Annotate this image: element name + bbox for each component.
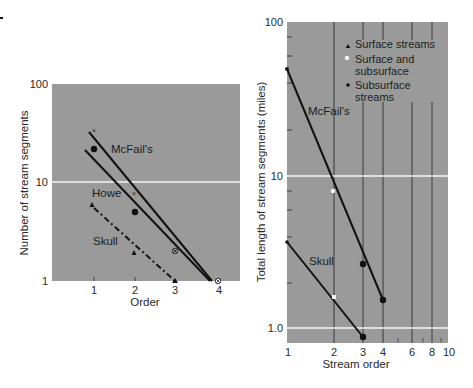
- left-label-mcfail: McFail's: [111, 143, 153, 155]
- legend-surface: Surface streams: [355, 38, 436, 50]
- left-ytick-1: 1: [42, 275, 48, 287]
- dot-marker-icon: [132, 209, 138, 215]
- dot-marker-icon: [360, 334, 366, 340]
- left-ylabel: Number of stream segments: [18, 110, 30, 255]
- right-xtick-6: 6: [409, 346, 415, 358]
- right-ytick-10: 10: [271, 170, 283, 182]
- right-xtick-8: 8: [429, 346, 435, 358]
- left-xtick-3: 3: [172, 284, 178, 296]
- right-xtick-10: 10: [443, 346, 455, 358]
- left-xtick-2: 2: [132, 284, 138, 296]
- dot-marker-icon: [285, 240, 289, 244]
- left-ytick-100: 100: [30, 78, 48, 90]
- circle-x-marker-icon: [215, 278, 221, 284]
- left-xlabel: Order: [130, 296, 160, 308]
- dot-marker-icon: [346, 83, 350, 87]
- right-xtick-3: 3: [360, 346, 366, 358]
- legend-mixed-line2: subsurface: [355, 65, 409, 77]
- right-xtick-1: 1: [285, 346, 291, 358]
- right-label-mcfail: McFail's: [308, 105, 350, 117]
- right-xtick-4: 4: [380, 346, 386, 358]
- left-xtick-4: 4: [216, 284, 222, 296]
- legend-subsurface-line2: streams: [355, 91, 395, 103]
- right-chart: 100 10 1.0 1 2 3 4 6 8 10 Stream order T…: [255, 16, 455, 370]
- dot-marker-icon: [91, 146, 97, 152]
- right-label-skull: Skull: [309, 255, 334, 267]
- left-label-skull: Skull: [93, 235, 118, 247]
- left-xtick-1: 1: [91, 284, 97, 296]
- dot-marker-icon: [360, 261, 366, 267]
- white-square-marker-icon: [332, 295, 336, 299]
- right-xtick-2: 2: [331, 346, 337, 358]
- right-xlabel: Stream order: [322, 358, 389, 370]
- white-dot-marker-icon: [331, 189, 335, 193]
- right-ylabel: Total length of stream segments (miles): [255, 81, 267, 282]
- x-marker-icon: ×: [92, 127, 96, 134]
- right-ytick-1: 1.0: [268, 322, 283, 334]
- corner-mark: [0, 17, 3, 19]
- legend-mixed-line1: Surface and: [355, 53, 414, 65]
- left-label-howe: Howe: [92, 187, 121, 199]
- left-chart: 100 10 1 1 2 3 4 Order Number of stream …: [18, 78, 240, 308]
- x-marker-icon: ×: [132, 190, 136, 197]
- legend-subsurface-line1: Subsurface: [355, 79, 411, 91]
- right-ytick-100: 100: [265, 16, 283, 28]
- white-dot-marker-icon: [345, 56, 350, 61]
- dot-marker-icon: [285, 67, 289, 71]
- dot-marker-icon: [380, 297, 386, 303]
- left-ytick-10: 10: [36, 176, 48, 188]
- figure: 100 10 1 1 2 3 4 Order Number of stream …: [0, 0, 473, 388]
